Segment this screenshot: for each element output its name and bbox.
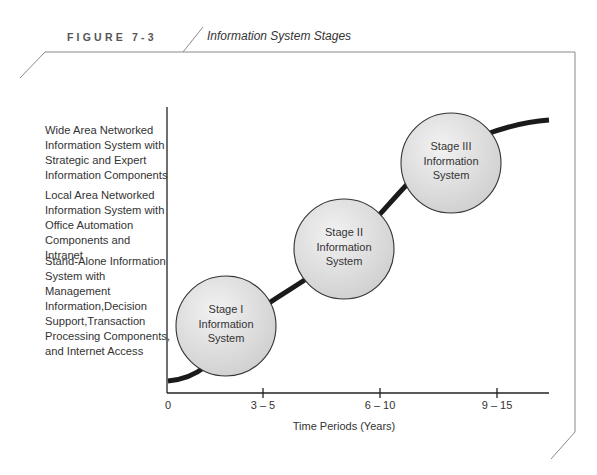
x-tick-0: 0: [165, 399, 171, 411]
x-axis-title: Time Periods (Years): [293, 420, 396, 432]
y-label-lan: Local Area Networked Information System …: [45, 188, 170, 263]
y-label-wan: Wide Area Networked Information System w…: [45, 123, 170, 183]
x-tick-3-5: 3 – 5: [251, 399, 275, 411]
stage-1-label: Stage I Information System: [198, 302, 253, 346]
stage-2-label: Stage II Information System: [316, 225, 371, 269]
stage-3-label: Stage III Information System: [423, 139, 478, 183]
x-tick-9-15: 9 – 15: [482, 399, 513, 411]
x-tick-6-10: 6 – 10: [365, 399, 396, 411]
y-label-standalone: Stand-Alone Information System with Mana…: [45, 254, 170, 359]
